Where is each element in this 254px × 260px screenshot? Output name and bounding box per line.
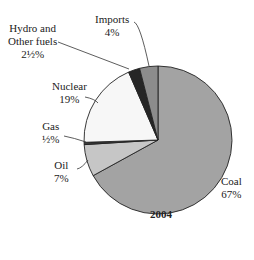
leader-imports — [134, 22, 149, 66]
label-nuclear-name: Nuclear — [52, 80, 87, 93]
leader-hydro — [58, 42, 129, 69]
leader-oil — [77, 160, 88, 169]
label-coal-name: Coal — [221, 175, 242, 188]
label-hydro: Hydro and Other fuels 2½% — [8, 22, 57, 61]
label-hydro-value: 2½% — [8, 48, 57, 61]
label-imports-value: 4% — [95, 26, 129, 39]
label-nuclear: Nuclear 19% — [52, 80, 87, 106]
label-gas-value: ½% — [42, 133, 59, 146]
label-hydro-name2: Other fuels — [8, 35, 57, 48]
label-oil-value: 7% — [54, 172, 69, 185]
label-gas: Gas ½% — [42, 120, 59, 146]
label-oil: Oil 7% — [54, 159, 69, 185]
chart-title: 2004 — [0, 208, 254, 220]
pie-slices — [84, 66, 232, 214]
label-oil-name: Oil — [54, 159, 69, 172]
label-imports: Imports 4% — [95, 13, 129, 39]
label-imports-name: Imports — [95, 13, 129, 26]
leader-gas — [64, 136, 86, 142]
label-nuclear-value: 19% — [52, 93, 87, 106]
label-gas-name: Gas — [42, 120, 59, 133]
label-coal: Coal 67% — [221, 175, 242, 201]
label-hydro-name1: Hydro and — [8, 22, 57, 35]
label-coal-value: 67% — [221, 188, 242, 201]
